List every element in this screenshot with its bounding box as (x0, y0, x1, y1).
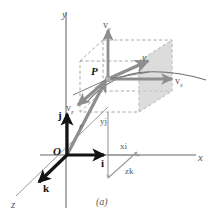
component-yj-unit: j (105, 116, 108, 126)
z-axis-label: z (11, 199, 15, 210)
figure-caption: (a) (96, 197, 108, 207)
velocity-component-vz-label: vz (66, 103, 73, 115)
component-xi-label: xi (120, 142, 127, 151)
component-yj-label: yj (100, 117, 107, 126)
unit-vector-k-arrow (39, 155, 67, 182)
vector-kinematics-diagram (0, 0, 211, 221)
point-P-marker (105, 76, 110, 81)
position-vector-r-label: r (79, 122, 83, 131)
origin-label: O (53, 146, 61, 157)
point-P-label: P (91, 66, 98, 77)
velocity-component-vx-label: vx (175, 76, 183, 88)
component-zk-unit: k (129, 166, 134, 176)
component-zk-label: zk (125, 167, 134, 176)
vz-sub: z (71, 108, 73, 115)
box-edge-tl (80, 40, 103, 61)
vy-sub: y (108, 25, 111, 32)
velocity-component-vz (78, 79, 108, 105)
plane-fill (139, 40, 172, 112)
unit-vector-i-label: i (101, 158, 104, 169)
y-axis-label: y (62, 9, 67, 20)
shaded-plane (139, 40, 172, 112)
component-xi-unit: i (125, 141, 128, 151)
unit-vector-k-label: k (43, 183, 49, 194)
unit-vector-j-label: j (58, 110, 62, 121)
z-axis (16, 107, 108, 196)
velocity-vector-v-label: v (142, 53, 146, 63)
velocity-component-vy-label: vy (103, 20, 111, 32)
x-axis-label: x (198, 152, 203, 163)
vx-sub: x (180, 81, 183, 88)
